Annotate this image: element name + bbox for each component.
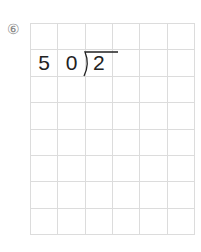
grid-cell[interactable]	[86, 209, 113, 235]
grid-cell[interactable]	[113, 182, 140, 208]
grid-cell[interactable]	[113, 209, 140, 235]
grid-cell[interactable]	[58, 24, 85, 50]
grid-cell[interactable]	[31, 103, 58, 129]
grid-cell[interactable]	[140, 182, 167, 208]
grid-cell[interactable]	[168, 156, 195, 182]
grid-cell[interactable]	[168, 182, 195, 208]
grid-cell[interactable]	[58, 209, 85, 235]
grid-cell[interactable]	[168, 77, 195, 103]
grid-cell[interactable]	[113, 24, 140, 50]
grid-cell[interactable]	[58, 77, 85, 103]
grid-cell[interactable]	[31, 77, 58, 103]
grid-cell[interactable]	[86, 77, 113, 103]
grid-cell[interactable]	[113, 77, 140, 103]
grid-cell[interactable]	[140, 103, 167, 129]
grid-cell[interactable]	[113, 130, 140, 156]
grid-cell[interactable]	[113, 156, 140, 182]
grid-cell[interactable]	[140, 24, 167, 50]
divisor-digit-tens: 5	[31, 50, 58, 76]
grid-cell[interactable]	[31, 182, 58, 208]
grid-cell[interactable]	[168, 130, 195, 156]
grid-cell[interactable]	[31, 156, 58, 182]
grid-cell[interactable]	[58, 130, 85, 156]
grid-cell[interactable]	[86, 103, 113, 129]
grid-cell[interactable]	[113, 103, 140, 129]
grid-cell[interactable]	[140, 77, 167, 103]
grid-cell[interactable]	[86, 24, 113, 50]
grid-cell[interactable]	[168, 24, 195, 50]
problem-number: ⑥	[7, 22, 20, 36]
grid-cell[interactable]	[58, 182, 85, 208]
division-bracket	[82, 50, 120, 78]
grid-cell[interactable]	[86, 130, 113, 156]
grid-cell[interactable]	[140, 209, 167, 235]
grid-cell[interactable]	[86, 182, 113, 208]
grid-cell[interactable]	[140, 130, 167, 156]
grid-cell[interactable]	[168, 103, 195, 129]
grid-cell[interactable]	[31, 209, 58, 235]
grid-cell[interactable]	[168, 209, 195, 235]
grid-cell[interactable]	[168, 50, 195, 76]
grid-cell[interactable]	[31, 24, 58, 50]
grid-cell[interactable]	[86, 156, 113, 182]
grid-cell[interactable]	[58, 156, 85, 182]
grid-cell[interactable]	[58, 103, 85, 129]
grid-cell[interactable]	[31, 130, 58, 156]
grid-cell[interactable]	[140, 50, 167, 76]
grid-cell[interactable]	[140, 156, 167, 182]
